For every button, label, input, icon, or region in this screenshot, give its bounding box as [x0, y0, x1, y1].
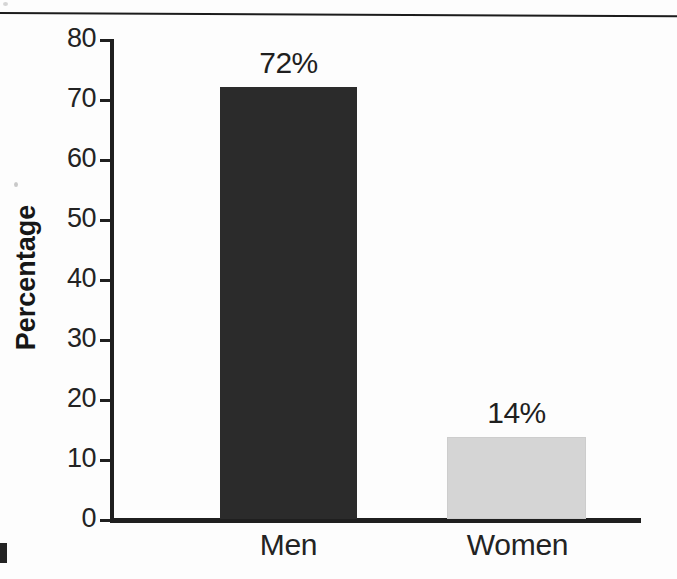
bar-value-men: 72% [218, 46, 359, 80]
y-tick-label-80: 80 [4, 23, 96, 54]
y-tick-10 [100, 459, 111, 462]
bar-women[interactable] [447, 437, 586, 519]
y-tick-30 [100, 339, 111, 342]
y-tick-label-40: 40 [4, 263, 96, 294]
y-tick-20 [100, 399, 111, 402]
y-tick-label-50: 50 [4, 203, 96, 234]
y-tick-0 [100, 519, 111, 522]
y-tick-40 [100, 279, 111, 282]
y-tick-label-60: 60 [4, 143, 96, 174]
y-tick-label-10: 10 [4, 443, 96, 474]
y-tick-label-20: 20 [4, 383, 96, 414]
plot-area: Percentage 0 10 20 30 40 50 60 [0, 0, 677, 579]
category-label-women: Women [440, 528, 595, 562]
y-tick-label-0: 0 [4, 503, 96, 534]
category-label-men: Men [218, 528, 359, 562]
y-tick-60 [100, 159, 111, 162]
bar-chart-figure: Percentage 0 10 20 30 40 50 60 [0, 0, 677, 579]
y-tick-80 [100, 39, 111, 42]
y-tick-label-70: 70 [4, 83, 96, 114]
y-tick-label-30: 30 [4, 323, 96, 354]
y-tick-70 [100, 99, 111, 102]
y-tick-50 [100, 219, 111, 222]
bar-value-women: 14% [446, 396, 587, 430]
bar-men[interactable] [220, 87, 357, 519]
